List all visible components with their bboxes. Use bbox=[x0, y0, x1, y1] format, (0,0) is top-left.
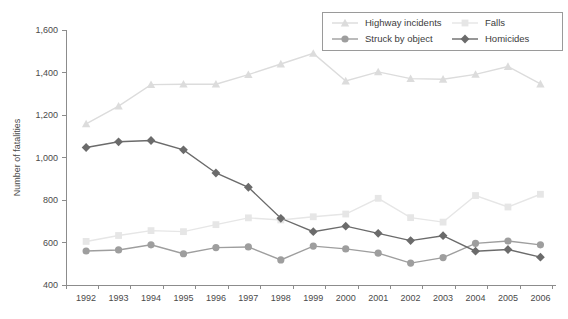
y-tick-label: 1,200 bbox=[35, 110, 58, 120]
x-tick-label: 2006 bbox=[530, 293, 550, 303]
plot-area: 4006008001,0001,2001,4001,600Number of f… bbox=[12, 12, 562, 303]
x-tick-label: 2001 bbox=[368, 293, 388, 303]
data-point-falls bbox=[505, 204, 512, 211]
x-tick-label: 1992 bbox=[76, 293, 96, 303]
x-tick-label: 2005 bbox=[498, 293, 518, 303]
data-point-falls bbox=[213, 221, 220, 228]
data-point-homicides bbox=[309, 227, 318, 236]
legend-label-homicides: Homicides bbox=[485, 33, 530, 44]
data-point-falls bbox=[310, 213, 317, 220]
data-point-falls bbox=[440, 219, 447, 226]
data-point-struck-by-object bbox=[439, 254, 446, 261]
data-point-falls bbox=[83, 238, 90, 245]
data-point-falls bbox=[115, 232, 122, 239]
x-tick-label: 1997 bbox=[238, 293, 258, 303]
legend-label-highway-incidents: Highway incidents bbox=[365, 17, 442, 28]
data-point-struck-by-object bbox=[212, 244, 219, 251]
x-tick-label: 1994 bbox=[141, 293, 161, 303]
series-line-highway-incidents bbox=[86, 53, 540, 124]
data-point-falls bbox=[342, 211, 349, 218]
data-point-struck-by-object bbox=[407, 260, 414, 267]
data-point-homicides bbox=[439, 231, 448, 240]
x-tick-label: 1996 bbox=[206, 293, 226, 303]
x-tick-label: 2004 bbox=[466, 293, 486, 303]
data-point-struck-by-object bbox=[115, 246, 122, 253]
data-point-struck-by-object bbox=[472, 240, 479, 247]
x-tick-label: 1993 bbox=[109, 293, 129, 303]
data-point-struck-by-object bbox=[375, 250, 382, 257]
line-chart: 4006008001,0001,2001,4001,600Number of f… bbox=[0, 0, 568, 319]
data-point-highway-incidents bbox=[504, 62, 512, 70]
data-point-highway-incidents bbox=[82, 120, 90, 128]
data-point-struck-by-object bbox=[342, 245, 349, 252]
x-tick-label: 2003 bbox=[433, 293, 453, 303]
x-tick-label: 2000 bbox=[336, 293, 356, 303]
data-point-highway-incidents bbox=[114, 102, 122, 110]
y-tick-label: 400 bbox=[43, 280, 58, 290]
data-point-falls bbox=[245, 214, 252, 221]
data-point-struck-by-object bbox=[537, 241, 544, 248]
data-point-struck-by-object bbox=[504, 237, 511, 244]
y-tick-label: 600 bbox=[43, 238, 58, 248]
legend-box bbox=[322, 12, 562, 50]
legend-marker-struck-by-object bbox=[341, 35, 348, 42]
y-tick-label: 1,000 bbox=[35, 153, 58, 163]
data-point-homicides bbox=[82, 143, 91, 152]
data-point-falls bbox=[537, 191, 544, 198]
data-point-falls bbox=[375, 195, 382, 202]
data-point-falls bbox=[148, 227, 155, 234]
data-point-falls bbox=[407, 214, 414, 221]
chart-container: 4006008001,0001,2001,4001,600Number of f… bbox=[0, 0, 568, 319]
data-point-struck-by-object bbox=[277, 256, 284, 263]
data-point-homicides bbox=[179, 145, 188, 154]
data-point-struck-by-object bbox=[147, 241, 154, 248]
data-point-homicides bbox=[212, 169, 221, 178]
data-point-homicides bbox=[341, 222, 350, 231]
x-tick-label: 1999 bbox=[303, 293, 323, 303]
legend-label-falls: Falls bbox=[485, 17, 505, 28]
x-tick-label: 2002 bbox=[401, 293, 421, 303]
data-point-homicides bbox=[406, 236, 415, 245]
data-point-falls bbox=[472, 192, 479, 199]
data-point-homicides bbox=[536, 253, 545, 262]
data-point-homicides bbox=[471, 247, 480, 256]
y-axis-title: Number of fatalities bbox=[12, 118, 22, 196]
data-point-struck-by-object bbox=[245, 243, 252, 250]
y-tick-label: 1,400 bbox=[35, 68, 58, 78]
data-point-highway-incidents bbox=[309, 49, 317, 57]
x-tick-label: 1995 bbox=[173, 293, 193, 303]
data-point-homicides bbox=[147, 136, 156, 145]
legend-marker-falls bbox=[462, 20, 469, 27]
data-point-highway-incidents bbox=[536, 80, 544, 88]
data-point-struck-by-object bbox=[310, 243, 317, 250]
data-point-homicides bbox=[504, 245, 513, 254]
y-tick-label: 1,600 bbox=[35, 25, 58, 35]
data-point-struck-by-object bbox=[83, 247, 90, 254]
x-tick-label: 1998 bbox=[271, 293, 291, 303]
data-point-homicides bbox=[114, 137, 123, 146]
y-tick-label: 800 bbox=[43, 195, 58, 205]
data-point-falls bbox=[180, 228, 187, 235]
legend-label-struck-by-object: Struck by object bbox=[365, 33, 433, 44]
data-point-highway-incidents bbox=[374, 68, 382, 76]
data-point-struck-by-object bbox=[180, 250, 187, 257]
data-point-homicides bbox=[374, 229, 383, 238]
